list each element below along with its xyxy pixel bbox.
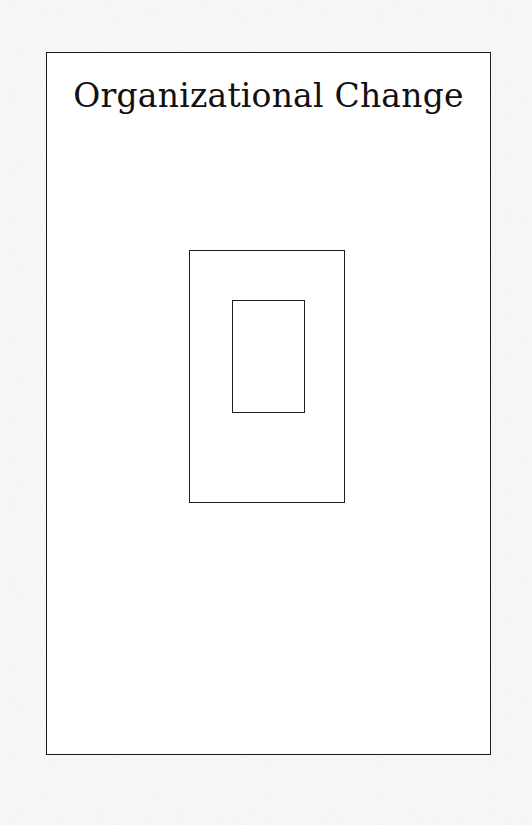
nested-rectangles-diagram bbox=[47, 53, 490, 754]
outer-rectangle bbox=[189, 250, 345, 503]
slide-page-frame: Organizational Change bbox=[46, 52, 491, 755]
page-title: Organizational Change bbox=[47, 76, 490, 116]
inner-rectangle bbox=[232, 300, 305, 413]
